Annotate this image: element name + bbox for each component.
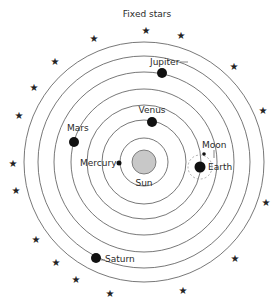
planet-mars xyxy=(69,137,79,147)
moon-group: Moon xyxy=(188,140,226,179)
diagram-title: Fixed stars xyxy=(123,9,172,19)
planet-venus xyxy=(147,117,157,127)
planet-label-jupiter: Jupiter xyxy=(149,57,180,67)
star-icon: ★ xyxy=(30,82,39,93)
star-icon: ★ xyxy=(262,197,271,208)
planet-label-mercury: Mercury xyxy=(80,158,117,168)
star-icon: ★ xyxy=(9,158,18,169)
star-icon: ★ xyxy=(179,285,188,296)
planet-saturn xyxy=(91,253,101,263)
star-icon: ★ xyxy=(12,185,21,196)
planet-jupiter xyxy=(157,68,167,78)
star-icon: ★ xyxy=(51,56,60,67)
sun: Sun xyxy=(132,150,156,188)
planet-mercury xyxy=(117,161,122,166)
planet-label-venus: Venus xyxy=(138,105,165,115)
moon-label: Moon xyxy=(202,140,226,150)
star-icon: ★ xyxy=(177,30,186,41)
planet-label-mars: Mars xyxy=(67,123,89,133)
sun-disc xyxy=(132,150,156,174)
star-icon: ★ xyxy=(142,25,151,36)
star-icon: ★ xyxy=(259,105,268,116)
geocentric-diagram: Fixed stars ★★★★★★★★★★★★★★★★★ Sun Mercur… xyxy=(0,0,277,304)
sun-label: Sun xyxy=(135,178,152,188)
moon xyxy=(202,152,206,156)
star-icon: ★ xyxy=(106,288,115,299)
star-icon: ★ xyxy=(90,33,99,44)
planet-label-saturn: Saturn xyxy=(105,254,135,264)
star-icon: ★ xyxy=(52,257,61,268)
star-icon: ★ xyxy=(230,61,239,72)
star-icon: ★ xyxy=(72,274,81,285)
planet-earth xyxy=(195,162,206,173)
star-icon: ★ xyxy=(32,234,41,245)
star-icon: ★ xyxy=(15,110,24,121)
diagram-canvas: Fixed stars ★★★★★★★★★★★★★★★★★ Sun Mercur… xyxy=(0,0,277,304)
star-icon: ★ xyxy=(231,253,240,264)
